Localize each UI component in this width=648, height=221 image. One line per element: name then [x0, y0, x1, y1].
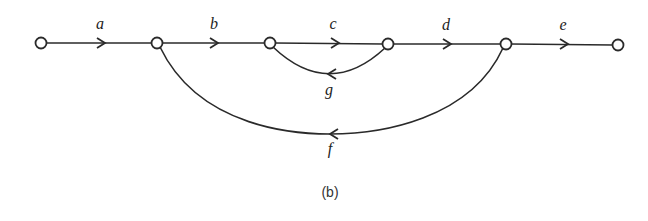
- edge-a: a: [46, 15, 152, 48]
- edge-c: c: [275, 15, 383, 48]
- label-a: a: [96, 15, 104, 32]
- label-c: c: [329, 15, 336, 32]
- edge-g: g: [273, 47, 385, 99]
- edge-d: d: [393, 16, 501, 49]
- node-6: [613, 40, 624, 51]
- edge-b: b: [162, 15, 265, 48]
- node-4: [383, 39, 394, 50]
- node-3: [265, 38, 276, 49]
- edge-e: e: [511, 16, 613, 49]
- edge-f: f: [160, 47, 503, 158]
- node-2: [152, 38, 163, 49]
- label-d: d: [442, 16, 451, 33]
- node-5: [501, 39, 512, 50]
- signal-flow-graph: a b c d e g f (b): [0, 0, 648, 221]
- label-e: e: [559, 16, 566, 33]
- label-f: f: [328, 140, 335, 158]
- figure-caption: (b): [321, 184, 338, 200]
- label-g: g: [325, 81, 333, 99]
- label-b: b: [210, 15, 218, 32]
- node-1: [36, 38, 47, 49]
